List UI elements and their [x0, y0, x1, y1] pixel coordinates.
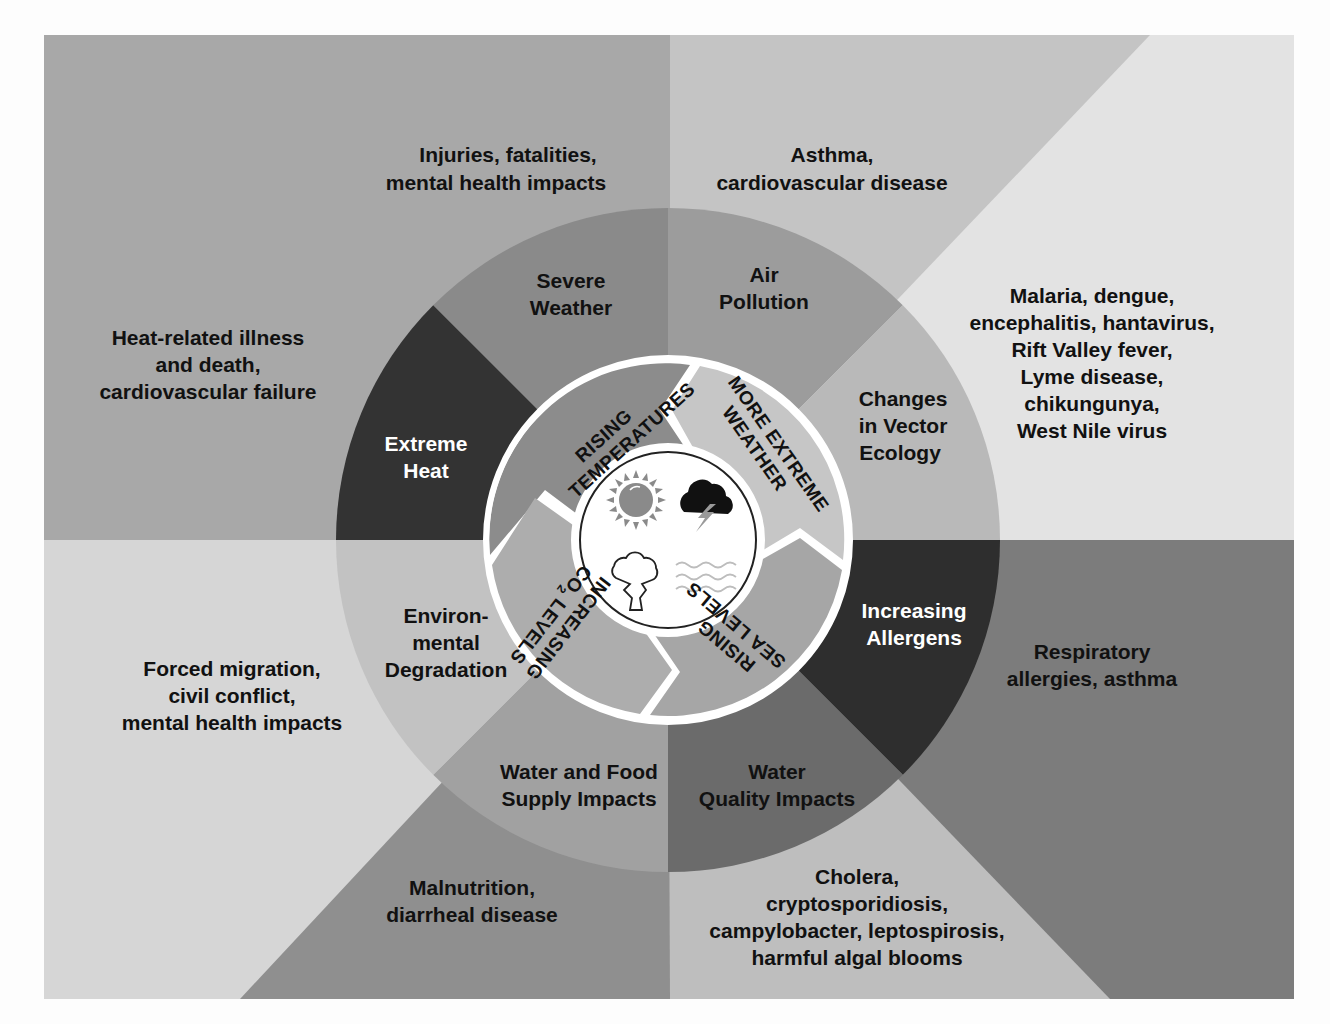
exposure-water-food-l2: Supply Impacts: [501, 787, 656, 810]
impact-heat-l2: and death,: [155, 353, 260, 376]
impact-severe-weather-l1: Injuries, fatalities,: [419, 143, 596, 166]
impact-water-quality-l3: campylobacter, leptospirosis,: [709, 919, 1004, 942]
impact-allergens-l2: allergies, asthma: [1007, 667, 1178, 690]
impact-degradation-l3: mental health impacts: [122, 711, 343, 734]
impact-vector-l1: Malaria, dengue,: [1010, 284, 1175, 307]
exposure-water-quality-l2: Quality Impacts: [699, 787, 855, 810]
exposure-water-food-l1: Water and Food: [500, 760, 658, 783]
impact-vector-l4: Lyme disease,: [1021, 365, 1164, 388]
exposure-air-pollution-l2: Pollution: [719, 290, 809, 313]
impact-water-quality-l4: harmful algal blooms: [751, 946, 962, 969]
impact-degradation-l1: Forced migration,: [143, 657, 320, 680]
impact-severe-weather-l2: mental health impacts: [386, 171, 607, 194]
exposure-extreme-heat-l1: Extreme: [385, 432, 468, 455]
impact-water-quality-l1: Cholera,: [815, 865, 899, 888]
exposure-vector-ecology-l1: Changes: [859, 387, 948, 410]
exposure-env-degradation-l1: Environ-: [403, 604, 488, 627]
exposure-env-degradation-l3: Degradation: [385, 658, 508, 681]
impact-water-quality-l2: cryptosporidiosis,: [766, 892, 948, 915]
impact-food-l1: Malnutrition,: [409, 876, 535, 899]
exposure-severe-weather-l1: Severe: [537, 269, 606, 292]
impact-air-pollution-l1: Asthma,: [791, 143, 874, 166]
exposure-allergens-l2: Allergens: [866, 626, 962, 649]
impact-heat-l1: Heat-related illness: [112, 326, 305, 349]
impact-vector-l5: chikungunya,: [1024, 392, 1159, 415]
impact-heat-l3: cardiovascular failure: [99, 380, 316, 403]
exposure-allergens-l1: Increasing: [861, 599, 966, 622]
impact-air-pollution-l2: cardiovascular disease: [716, 171, 947, 194]
exposure-severe-weather-l2: Weather: [530, 296, 612, 319]
impact-food-l2: diarrheal disease: [386, 903, 558, 926]
impact-vector-l3: Rift Valley fever,: [1011, 338, 1172, 361]
impact-allergens-l1: Respiratory: [1034, 640, 1151, 663]
exposure-air-pollution-l1: Air: [749, 263, 778, 286]
impact-vector-l2: encephalitis, hantavirus,: [969, 311, 1214, 334]
exposure-extreme-heat-l2: Heat: [403, 459, 449, 482]
impact-vector-l6: West Nile virus: [1017, 419, 1167, 442]
exposure-vector-ecology-l3: Ecology: [859, 441, 941, 464]
climate-health-diagram: RISING TEMPERATURES MORE EXTREME WEATHER…: [0, 0, 1330, 1024]
exposure-env-degradation-l2: mental: [412, 631, 480, 654]
exposure-vector-ecology-l2: in Vector: [859, 414, 948, 437]
impact-degradation-l2: civil conflict,: [168, 684, 295, 707]
exposure-water-quality-l1: Water: [748, 760, 806, 783]
